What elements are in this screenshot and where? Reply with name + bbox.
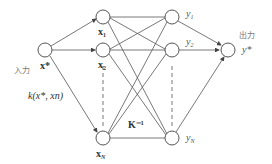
edge-y1-output — [178, 21, 221, 45]
target-label-1-sub: 1 — [190, 14, 193, 20]
target-node-1 — [165, 10, 179, 24]
training-label-1-sub: 1 — [103, 32, 106, 38]
matrix-label: K⁻¹ — [128, 119, 144, 130]
target-node-2 — [165, 43, 179, 57]
training-node-N — [96, 131, 110, 145]
output-label: y* — [241, 44, 251, 55]
target-label-1: y1 — [185, 8, 193, 20]
input-label: x* — [40, 60, 50, 71]
output-caption: 出力 — [239, 30, 255, 40]
training-node-2 — [96, 43, 110, 57]
input-caption: 入力 — [14, 65, 30, 75]
training-label-2-sub: 2 — [103, 65, 106, 71]
edge-yN-output — [176, 57, 224, 132]
training-label-N: xN — [96, 148, 106, 160]
target-label-N: yN — [185, 132, 195, 144]
edge-input-x1 — [51, 19, 96, 46]
target-node-N — [165, 131, 179, 145]
training-label-2: x2 — [98, 59, 106, 71]
target-label-2-sub: 2 — [190, 42, 193, 48]
training-node-1 — [96, 10, 110, 24]
input-node — [38, 43, 52, 57]
network-diagram: 入力 x* k(x*, xn) x1 x2 xN K⁻¹ y1 y2 yN 出力… — [0, 0, 272, 164]
kernel-label: k(x*, xn) — [28, 90, 64, 102]
target-label-2: y2 — [185, 36, 193, 48]
training-label-N-sub: N — [100, 154, 106, 160]
target-label-N-sub: N — [189, 138, 195, 144]
output-node — [221, 43, 235, 57]
input-label-text: x* — [40, 60, 50, 71]
training-label-1: x1 — [98, 26, 106, 38]
